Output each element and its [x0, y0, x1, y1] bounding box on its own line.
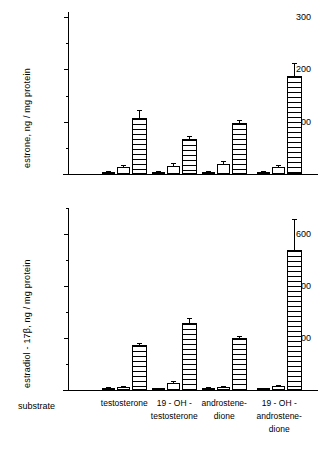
- bar: [167, 166, 180, 174]
- bar: [287, 76, 302, 174]
- bar: [272, 386, 285, 390]
- error-bar-cap: [261, 171, 266, 172]
- error-bar-cap: [237, 120, 242, 121]
- figure-root: estrone, ng / mg protein 100200300 estra…: [0, 0, 326, 452]
- error-bar-cap: [187, 318, 192, 319]
- bar: [182, 139, 197, 174]
- y-axis-label-estradiol: estradiol - 17β, ng / mg protein: [22, 259, 32, 388]
- plot-area-estradiol: 200400600: [68, 208, 318, 390]
- chart-panel-estradiol: estradiol - 17β, ng / mg protein 2004006…: [0, 200, 326, 452]
- bar: [202, 172, 215, 174]
- bar: [257, 172, 270, 174]
- error-bar-cap: [156, 388, 161, 389]
- error-bar-cap: [237, 336, 242, 337]
- error-bar-cap: [221, 161, 226, 162]
- error-bar-cap: [137, 343, 142, 344]
- error-bar-cap: [206, 171, 211, 172]
- bar: [102, 388, 115, 390]
- x-axis-line: [63, 174, 318, 175]
- x-axis-label: 19 - OH -: [239, 398, 319, 408]
- bar: [217, 164, 230, 174]
- error-bar-cap: [276, 385, 281, 386]
- error-bar-cap: [206, 387, 211, 388]
- bar-group-container: [68, 208, 318, 390]
- bar: [102, 172, 115, 174]
- y-axis-label-estrone: estrone, ng / mg protein: [22, 68, 32, 168]
- error-bar-cap: [187, 136, 192, 137]
- bar: [132, 345, 147, 390]
- bar: [182, 323, 197, 390]
- x-axis-label: dione: [239, 424, 319, 434]
- error-bar-cap: [221, 386, 226, 387]
- error-bar-cap: [121, 165, 126, 166]
- substrate-axis-title: substrate: [18, 401, 55, 411]
- bar: [287, 250, 302, 390]
- error-bar-cap: [106, 387, 111, 388]
- x-axis-label: androstene-: [239, 411, 319, 421]
- error-bar-cap: [156, 171, 161, 172]
- error-bar-cap: [171, 381, 176, 382]
- bar: [232, 123, 247, 174]
- bar: [272, 167, 285, 174]
- error-bar-cap: [171, 163, 176, 164]
- x-axis-line: [63, 390, 318, 391]
- bar-group-container: [68, 12, 318, 174]
- bar: [117, 167, 130, 174]
- error-bar-cap: [276, 165, 281, 166]
- error-bar: [294, 63, 295, 76]
- bar: [117, 387, 130, 390]
- error-bar-cap: [292, 219, 297, 220]
- error-bar-cap: [292, 63, 297, 64]
- error-bar-cap: [121, 386, 126, 387]
- bar: [217, 387, 230, 390]
- bar: [132, 118, 147, 174]
- bar: [167, 383, 180, 390]
- error-bar-cap: [261, 388, 266, 389]
- error-bar-cap: [137, 110, 142, 111]
- chart-panel-estrone: estrone, ng / mg protein 100200300: [0, 0, 326, 200]
- bar: [232, 338, 247, 390]
- error-bar: [294, 219, 295, 251]
- plot-area-estrone: 100200300: [68, 12, 318, 174]
- error-bar: [139, 110, 140, 117]
- error-bar-cap: [106, 171, 111, 172]
